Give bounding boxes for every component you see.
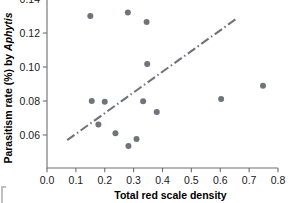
x-axis-title: Total red scale density — [114, 189, 227, 201]
regression-trend-line — [67, 19, 236, 140]
scatter-point — [260, 83, 266, 89]
y-axis-title-plain: Parasitism rate (%) by — [2, 51, 14, 164]
scan-corner-artifact — [1, 186, 6, 203]
scatter-point — [134, 136, 140, 142]
y-axis-title-species: Aphytis — [2, 12, 14, 52]
tick-marks — [43, 0, 278, 172]
scatter-point — [140, 98, 146, 104]
data-points — [87, 10, 266, 149]
x-tick-label: 0.5 — [184, 174, 199, 186]
chart-canvas: 0.00.10.20.30.40.50.60.70.8 0.060.080.10… — [0, 0, 294, 203]
y-tick-label: 0.06 — [20, 129, 41, 141]
y-tick-label: 0.08 — [20, 95, 41, 107]
scatter-point — [95, 121, 101, 127]
axis-spines — [47, 0, 278, 168]
x-tick-label: 0.4 — [155, 174, 170, 186]
y-axis-tick-labels: 0.060.080.100.120.14 — [20, 0, 41, 141]
scatter-point — [102, 99, 108, 105]
scatter-point — [218, 96, 224, 102]
y-tick-label: 0.14 — [20, 0, 41, 5]
x-axis-title-text: Total red scale density — [114, 189, 227, 201]
y-axis-title-text: Parasitism rate (%) by Aphytis — [2, 12, 14, 163]
x-tick-label: 0.8 — [271, 174, 286, 186]
x-axis-tick-labels: 0.00.10.20.30.40.50.60.70.8 — [40, 174, 286, 186]
scatter-plot-figure: 0.00.10.20.30.40.50.60.70.8 0.060.080.10… — [0, 0, 294, 203]
scatter-point — [144, 19, 150, 25]
page-corner-mark — [1, 186, 6, 203]
scatter-point — [125, 10, 131, 16]
y-tick-label: 0.12 — [20, 27, 41, 39]
x-tick-label: 0.1 — [69, 174, 84, 186]
scatter-point — [87, 13, 93, 19]
scatter-point — [89, 98, 95, 104]
scatter-point — [125, 143, 131, 149]
axes — [47, 0, 278, 168]
x-tick-label: 0.2 — [97, 174, 112, 186]
x-tick-label: 0.0 — [40, 174, 55, 186]
y-tick-label: 0.10 — [20, 61, 41, 73]
x-tick-label: 0.7 — [242, 174, 257, 186]
x-tick-label: 0.3 — [126, 174, 141, 186]
scatter-point — [154, 109, 160, 115]
x-tick-label: 0.6 — [213, 174, 228, 186]
scatter-point — [112, 130, 118, 136]
trend-line — [67, 19, 236, 140]
scatter-point — [144, 61, 150, 67]
y-axis-title: Parasitism rate (%) by Aphytis — [2, 12, 14, 163]
